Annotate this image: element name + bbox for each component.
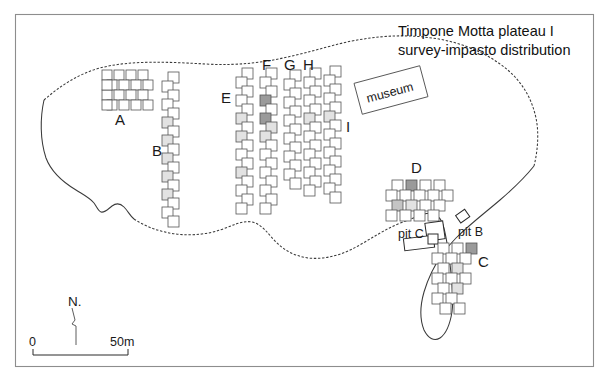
block-label-d: D [411,160,422,175]
figure-title-line1: Timpone Motta plateau I [398,22,570,41]
block-label-g: G [284,57,296,72]
scale-max-label: 50m [110,335,134,349]
survey-block-c [432,243,477,314]
north-arrow [72,308,76,345]
figure-title: Timpone Motta plateau I survey-impasto d… [398,22,570,60]
survey-block-g [284,70,301,189]
block-label-a: A [115,112,125,127]
survey-map-figure: Timpone Motta plateau I survey-impasto d… [0,0,608,381]
survey-block-h [304,68,321,196]
pit-c-marker [428,234,438,244]
block-label-i: I [346,119,350,134]
pit-b-label: pit B [458,226,483,239]
north-label: N. [68,294,82,309]
pit-c-label: pit C [398,228,424,241]
block-label-c: C [478,254,489,269]
survey-block-d [386,180,453,221]
scale-bar [33,349,128,355]
survey-block-i [324,66,341,203]
block-label-b: B [152,143,162,158]
block-label-e: E [221,90,231,105]
figure-title-line2: survey-impasto distribution [398,41,570,60]
survey-block-b [162,72,179,227]
pit-b-marker [456,209,470,223]
survey-block-a [102,70,153,110]
survey-block-e [236,68,253,214]
block-label-f: F [262,57,271,72]
scale-zero-label: 0 [29,335,36,349]
survey-block-f [260,68,277,214]
block-label-h: H [303,57,314,72]
